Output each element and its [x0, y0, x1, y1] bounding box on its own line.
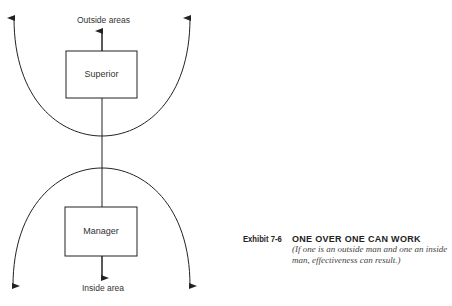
manager-label: Manager [65, 226, 137, 236]
exhibit-number: Exhibit 7-6 [243, 234, 285, 244]
exhibit-title: ONE OVER ONE CAN WORK [292, 234, 421, 244]
exhibit-subtitle: (If one is an outside man and one an ins… [292, 244, 452, 265]
exhibit-caption: Exhibit 7-6 ONE OVER ONE CAN WORK (If on… [243, 234, 452, 265]
inside-area-label: Inside area [82, 283, 124, 293]
superior-label: Superior [66, 69, 137, 79]
outside-areas-label: Outside areas [77, 15, 130, 25]
